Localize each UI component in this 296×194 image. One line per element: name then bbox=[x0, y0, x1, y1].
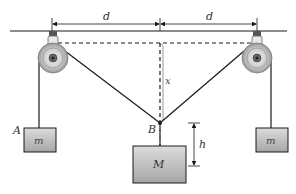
label-A: A bbox=[12, 124, 21, 137]
label-mass-left: m bbox=[34, 135, 43, 146]
left-mass-A: m A bbox=[12, 124, 56, 152]
label-h: h bbox=[199, 138, 206, 151]
label-d-left: d bbox=[103, 10, 110, 23]
label-mass-center: M bbox=[152, 158, 165, 171]
label-B: B bbox=[147, 123, 156, 136]
string-left-to-B bbox=[65, 51, 160, 123]
dimension-h: h bbox=[188, 123, 206, 166]
pulley-diagram: d d x B m A m bbox=[0, 0, 296, 194]
left-pulley bbox=[38, 31, 68, 73]
string-right-to-B bbox=[160, 51, 244, 123]
label-mass-right: m bbox=[266, 135, 275, 146]
dimension-d: d d bbox=[52, 10, 257, 31]
right-pulley bbox=[242, 31, 272, 73]
label-d-right: d bbox=[206, 10, 213, 23]
right-mass: m bbox=[256, 128, 288, 152]
dimension-x: x bbox=[161, 44, 171, 120]
center-mass-M: M bbox=[133, 146, 186, 183]
label-x: x bbox=[165, 75, 171, 86]
point-B bbox=[158, 121, 162, 125]
